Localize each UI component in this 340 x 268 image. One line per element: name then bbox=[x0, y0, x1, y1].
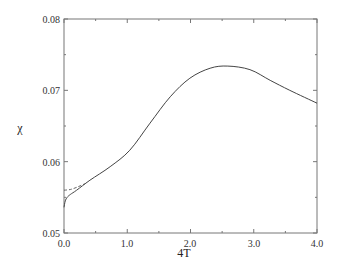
x-tick-label-4.0: 4.0 bbox=[311, 238, 324, 249]
y-axis-label: χ bbox=[16, 121, 23, 135]
x-axis-label: 4T bbox=[177, 246, 191, 260]
y-tick-label-0.07: 0.07 bbox=[43, 85, 61, 96]
x-tick-label-3.0: 3.0 bbox=[248, 238, 261, 249]
y-tick-label-0.06: 0.06 bbox=[43, 157, 61, 168]
y-tick-label-0.08: 0.08 bbox=[43, 14, 61, 25]
axis-ticks bbox=[64, 19, 317, 233]
solid-series-line bbox=[64, 66, 317, 207]
plot-frame bbox=[64, 19, 317, 233]
dashed-series-line bbox=[64, 184, 85, 190]
chi-vs-temperature-chart: 0.08 0.07 0.06 0.05 0.0 1.0 2.0 3.0 4.0 … bbox=[0, 0, 340, 268]
tick-labels: 0.08 0.07 0.06 0.05 0.0 1.0 2.0 3.0 4.0 bbox=[43, 14, 324, 249]
x-tick-label-1.0: 1.0 bbox=[121, 238, 134, 249]
x-tick-label-0.0: 0.0 bbox=[58, 238, 71, 249]
